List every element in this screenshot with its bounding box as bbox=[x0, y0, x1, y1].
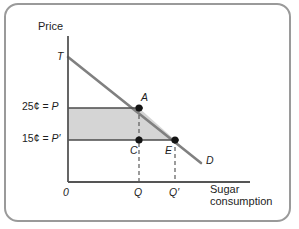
point-label-e: E bbox=[165, 145, 172, 157]
y-tick-label-15-cents: 15¢ = P′ bbox=[22, 133, 60, 145]
figure-root: Price Sugar consumption 25¢ = P 15¢ = P′… bbox=[0, 0, 299, 229]
y-tick-symbol-p-prime: P′ bbox=[52, 132, 61, 144]
point-label-a: A bbox=[141, 92, 148, 104]
x-axis-label-line2: consumption bbox=[210, 195, 272, 207]
x-tick-label-q: Q bbox=[134, 187, 142, 199]
point-e-marker bbox=[171, 136, 178, 143]
x-axis-label-line1: Sugar bbox=[210, 183, 239, 195]
y-tick-value-25: 25¢ = bbox=[22, 100, 52, 112]
origin-label: 0 bbox=[63, 187, 69, 199]
demand-curve-label: D bbox=[206, 155, 214, 167]
x-tick-label-q-prime: Q′ bbox=[169, 187, 179, 199]
y-tick-symbol-p: P bbox=[52, 100, 59, 112]
y-tick-label-25-cents: 25¢ = P bbox=[22, 101, 59, 113]
y-tick-value-15: 15¢ = bbox=[22, 132, 52, 144]
point-c-marker bbox=[135, 136, 142, 143]
curve-intercept-label-t: T bbox=[57, 51, 63, 63]
x-axis-label: Sugar consumption bbox=[210, 183, 272, 208]
shaded-surplus-region bbox=[68, 108, 175, 140]
point-label-c: C bbox=[130, 145, 138, 157]
point-a-marker bbox=[135, 104, 142, 111]
y-axis-label: Price bbox=[38, 20, 63, 32]
